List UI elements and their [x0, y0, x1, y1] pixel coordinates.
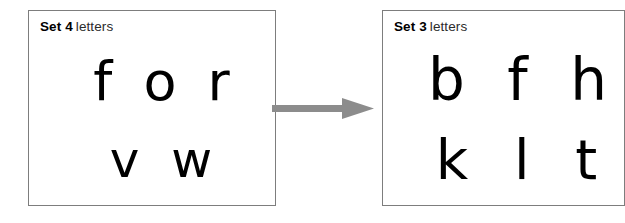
letter-row: b f h	[428, 53, 619, 108]
set-box-right-header: Set 3letters	[394, 19, 467, 35]
set-box-right-category-label: letters	[430, 19, 467, 34]
letter-row: f o r	[93, 56, 237, 107]
set-box-right: Set 3letters b f h k l t	[382, 10, 625, 206]
set-box-left-set-label: Set 4	[40, 19, 73, 34]
set-box-right-set-label: Set 3	[394, 19, 427, 34]
letter-row: k l t	[436, 133, 612, 186]
arrow-right-icon	[272, 94, 374, 124]
set-box-left: Set 4letters f o r v w	[28, 10, 276, 206]
set-box-right-letter-rows: b f h k l t	[383, 41, 624, 199]
set-box-left-category-label: letters	[76, 19, 113, 34]
set-box-left-header: Set 4letters	[40, 19, 113, 35]
set-box-left-letter-rows: f o r v w	[29, 41, 275, 199]
letter-row: v w	[110, 137, 220, 185]
arrow-right-svg	[272, 94, 374, 124]
